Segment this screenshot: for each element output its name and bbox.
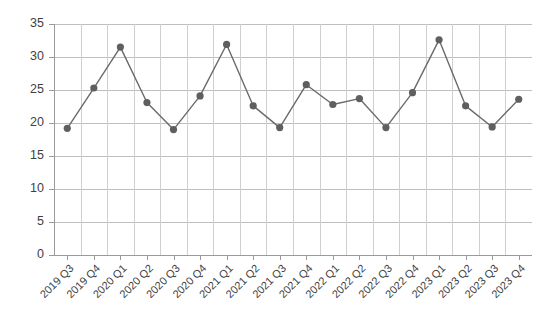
- data-point-marker: [329, 101, 336, 108]
- data-point-marker: [143, 99, 150, 106]
- y-tick-label: 25: [30, 82, 44, 96]
- data-point-marker: [515, 96, 522, 103]
- data-point-marker: [382, 124, 389, 131]
- y-tick-label: 15: [30, 148, 44, 162]
- data-point-marker: [303, 81, 310, 88]
- y-tick-label: 35: [30, 16, 44, 30]
- data-point-marker: [250, 102, 257, 109]
- data-point-marker: [64, 125, 71, 132]
- y-axis-tick-labels: 05101520253035: [30, 16, 44, 261]
- y-axis: [49, 24, 55, 256]
- data-point-marker: [196, 92, 203, 99]
- x-axis: [54, 255, 532, 260]
- data-point-marker: [435, 36, 442, 43]
- vertical-gridlines: [82, 24, 506, 255]
- y-tick-label: 10: [30, 181, 44, 195]
- data-point-marker: [223, 41, 230, 48]
- data-point-marker: [409, 89, 416, 96]
- y-tick-label: 30: [30, 49, 44, 63]
- data-point-marker: [489, 123, 496, 130]
- y-tick-label: 0: [37, 247, 44, 261]
- data-point-marker: [117, 44, 124, 51]
- y-tick-label: 5: [37, 214, 44, 228]
- data-point-marker: [356, 95, 363, 102]
- y-tick-label: 20: [30, 115, 44, 129]
- data-point-marker: [90, 84, 97, 91]
- chart-canvas: 05101520253035 2019 Q32019 Q42020 Q12020…: [0, 0, 560, 321]
- line-chart: 05101520253035 2019 Q32019 Q42020 Q12020…: [0, 0, 560, 321]
- data-point-marker: [462, 102, 469, 109]
- x-axis-tick-labels: 2019 Q32019 Q42020 Q12020 Q22020 Q32020 …: [37, 262, 527, 300]
- data-point-marker: [170, 126, 177, 133]
- data-point-marker: [276, 124, 283, 131]
